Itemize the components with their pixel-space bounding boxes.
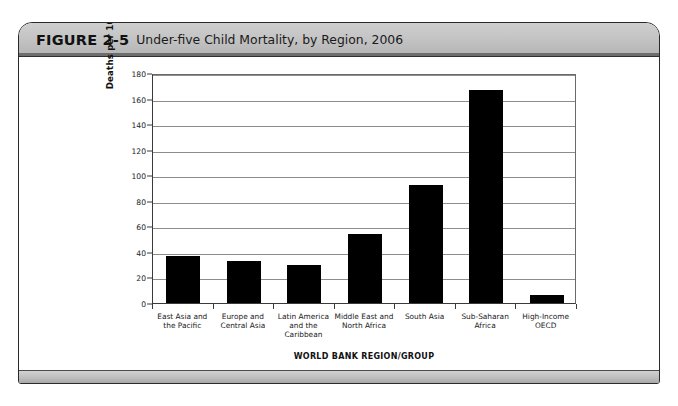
y-tick-mark — [147, 201, 152, 202]
y-tick-mark — [147, 252, 152, 253]
y-tick-label: 60 — [114, 223, 146, 232]
x-category-label: Europe and Central Asia — [213, 312, 274, 330]
y-tick-mark — [147, 74, 152, 75]
x-category-label: Sub-Saharan Africa — [455, 312, 516, 330]
x-category-label: South Asia — [394, 312, 455, 321]
y-tick-mark — [147, 99, 152, 100]
figure-frame: FIGURE 2-5 Under-five Child Mortality, b… — [18, 22, 660, 384]
bar-slot — [335, 75, 396, 303]
x-tick-mark — [273, 304, 274, 309]
bar[interactable] — [348, 234, 382, 303]
figure-title: Under-five Child Mortality, by Region, 2… — [136, 32, 403, 47]
x-category-label: Latin America and the Caribbean — [273, 312, 334, 340]
bar-chart: Deaths per 1000 Live Births 020406080100… — [19, 57, 660, 349]
y-tick-label: 160 — [114, 95, 146, 104]
y-tick-label: 80 — [114, 197, 146, 206]
y-tick-label: 0 — [114, 300, 146, 309]
bar[interactable] — [409, 185, 443, 303]
x-tick-mark — [213, 304, 214, 309]
y-tick-label: 40 — [114, 248, 146, 257]
bar-slot — [153, 75, 214, 303]
x-tick-mark — [334, 304, 335, 309]
y-tick-mark — [147, 278, 152, 279]
bar-slot — [395, 75, 456, 303]
bar[interactable] — [287, 265, 321, 303]
x-tick-mark — [515, 304, 516, 309]
bar-slot — [456, 75, 517, 303]
figure-footer — [19, 370, 659, 383]
x-category-label: High-Income OECD — [515, 312, 576, 330]
bar-slot — [516, 75, 577, 303]
x-axis-title: WORLD BANK REGION/GROUP — [152, 352, 576, 361]
y-tick-label: 180 — [114, 70, 146, 79]
x-tick-mark — [152, 304, 153, 309]
y-tick-mark — [147, 125, 152, 126]
figure-body: Deaths per 1000 Live Births 020406080100… — [19, 57, 659, 349]
plot-area — [152, 74, 576, 304]
x-tick-mark — [394, 304, 395, 309]
figure-header: FIGURE 2-5 Under-five Child Mortality, b… — [19, 23, 659, 57]
y-tick-mark — [147, 227, 152, 228]
bar[interactable] — [166, 256, 200, 303]
bar[interactable] — [227, 261, 261, 303]
y-tick-label: 20 — [114, 274, 146, 283]
y-tick-label: 120 — [114, 146, 146, 155]
bar[interactable] — [530, 295, 564, 303]
x-tick-mark — [455, 304, 456, 309]
y-tick-mark — [147, 176, 152, 177]
y-tick-label: 140 — [114, 121, 146, 130]
y-tick-mark — [147, 150, 152, 151]
x-axis: WORLD BANK REGION/GROUP East Asia and th… — [152, 304, 576, 374]
x-category-label: East Asia and the Pacific — [152, 312, 213, 330]
bar[interactable] — [469, 90, 503, 303]
bars-layer — [153, 75, 575, 303]
figure-number: FIGURE 2-5 — [36, 32, 129, 48]
y-tick-label: 100 — [114, 172, 146, 181]
x-tick-mark — [576, 304, 577, 309]
bar-slot — [214, 75, 275, 303]
x-category-label: Middle East and North Africa — [334, 312, 395, 330]
bar-slot — [274, 75, 335, 303]
